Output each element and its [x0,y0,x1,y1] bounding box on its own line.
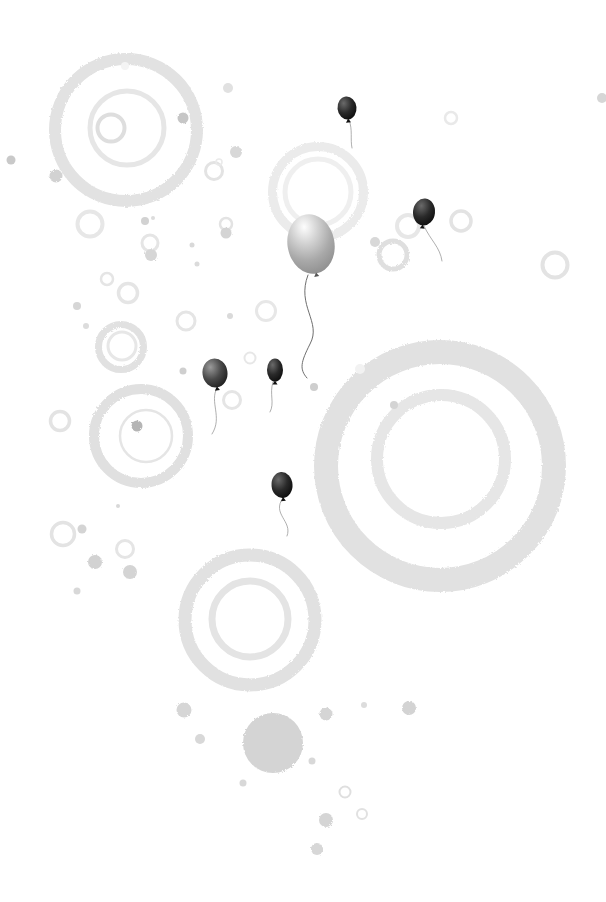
faded-dot [243,713,303,773]
faded-ring [108,332,136,360]
balloon-top-black[interactable] [336,96,358,124]
balloon-left-gray[interactable] [201,357,230,392]
faded-dot [50,170,63,183]
faded-ring [257,302,276,321]
faded-dot [190,243,195,248]
faded-ring [119,284,138,303]
faded-ring [326,352,554,580]
faded-dot [402,701,416,715]
faded-dot [223,83,233,93]
faded-dot [309,758,316,765]
faded-ring [377,395,505,523]
balloon-left-gray-body[interactable] [201,357,230,389]
faded-ring [101,273,113,285]
faded-ring [117,541,134,558]
faded-dot [311,843,323,855]
faded-ring [142,235,158,251]
balloon-scene-svg [0,0,606,902]
faded-dot [221,228,232,239]
faded-ring [51,412,70,431]
faded-ring [94,389,188,483]
faded-dot [121,62,129,70]
faded-dot [73,302,81,310]
balloon-scene [0,0,606,902]
balloon-lower-black[interactable] [270,471,293,502]
faded-ring [120,410,172,462]
balloon-top-black-body[interactable] [336,96,357,121]
balloon-lower-black-string [279,498,288,536]
faded-ring [245,353,256,364]
faded-ring [543,253,568,278]
faded-ring [212,581,288,657]
faded-dot [361,702,367,708]
faded-ring [379,241,407,269]
faded-dot [83,323,89,329]
faded-ring [224,392,241,409]
faded-ring [78,212,103,237]
faded-dot [74,588,81,595]
faded-dot [319,813,333,827]
faded-ring [451,211,471,231]
faded-dot [195,262,200,267]
faded-dot [123,565,137,579]
faded-dot [145,249,157,261]
balloon-left-gray-string [212,388,217,434]
faded-ring [340,787,351,798]
balloon-right-black-body[interactable] [412,197,437,226]
faded-ring [185,555,315,685]
faded-dot [177,703,192,718]
faded-dot [227,313,233,319]
faded-ring [357,809,367,819]
faded-dot [390,401,398,409]
faded-dot [597,93,606,103]
faded-ring [445,112,457,124]
balloon-mid-black-body[interactable] [267,359,283,382]
balloon-lower-black-body[interactable] [270,471,293,499]
faded-dot [7,156,16,165]
faded-dot [141,217,149,225]
faded-dot [320,708,333,721]
faded-dot [178,113,189,124]
balloon-right-black-string [424,226,442,261]
faded-rings-layer [51,59,568,819]
balloon-top-black-string [349,120,352,148]
balloon-mid-black-string [270,382,273,412]
balloon-right-black[interactable] [411,197,436,229]
faded-dot [195,734,205,744]
faded-ring [98,115,125,142]
faded-dot [370,237,380,247]
faded-ring [52,523,75,546]
faded-dot [230,146,242,158]
faded-dot [78,525,87,534]
faded-ring [90,91,164,165]
faded-dot [151,216,155,220]
faded-ring [177,312,195,330]
faded-dot [180,368,187,375]
faded-dot [116,504,120,508]
faded-dot [310,383,318,391]
faded-dot [88,555,102,569]
faded-dot [132,421,143,432]
faded-dot [355,364,365,374]
faded-ring [285,159,351,225]
balloon-large-gray-string [302,275,313,378]
faded-dot [240,780,247,787]
balloon-mid-black[interactable] [267,359,283,385]
